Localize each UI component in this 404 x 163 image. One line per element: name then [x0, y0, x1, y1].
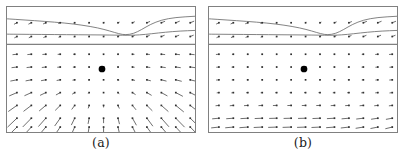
- panel-a: (a): [0, 0, 202, 163]
- field-arrow: [24, 105, 32, 111]
- field-arrow: [147, 93, 151, 96]
- panel-b: (b): [202, 0, 404, 163]
- field-arrow: [161, 105, 168, 111]
- field-arrow: [9, 105, 17, 111]
- field-arrow: [43, 23, 45, 24]
- field-arrow: [386, 118, 392, 119]
- field-arrow: [231, 23, 233, 24]
- field-arrow: [89, 93, 90, 94]
- field-arrow: [327, 127, 335, 128]
- field-arrow: [363, 35, 366, 36]
- field-arrow: [213, 118, 219, 119]
- field-arrow: [26, 80, 31, 81]
- field-arrow: [11, 80, 17, 81]
- grid-node: [290, 79, 292, 81]
- contour-lower-contour: [7, 30, 195, 35]
- curves-group-b: [209, 16, 397, 35]
- field-arrow: [38, 127, 46, 132]
- field-arrow: [147, 36, 149, 37]
- field-arrow: [190, 93, 195, 97]
- grid-node: [103, 92, 105, 94]
- field-arrow: [39, 118, 46, 126]
- plot-frame-a: [6, 6, 196, 133]
- grid-node: [290, 66, 292, 68]
- plot-frame-b: [208, 6, 398, 133]
- field-arrow: [29, 37, 31, 38]
- field-arrow: [357, 118, 364, 119]
- field-arrow: [226, 127, 234, 128]
- field-arrow: [176, 105, 184, 111]
- field-arrow: [7, 127, 16, 132]
- field-arrow: [341, 127, 349, 128]
- field-arrow: [161, 93, 167, 96]
- field-arrow: [10, 93, 17, 96]
- field-arrow: [23, 127, 32, 132]
- field-arrow: [23, 118, 31, 126]
- field-arrow: [212, 127, 219, 128]
- field-arrow: [72, 105, 75, 109]
- field-arrow: [132, 127, 136, 132]
- field-arrow: [40, 93, 45, 96]
- contour-lower-contour: [209, 30, 397, 35]
- field-arrow: [176, 93, 183, 97]
- field-arrow: [147, 118, 153, 126]
- field-arrow: [190, 118, 195, 127]
- field-arrow: [190, 105, 195, 111]
- field-arrow: [386, 127, 393, 129]
- field-arrow: [71, 127, 74, 132]
- grid-node: [305, 79, 307, 81]
- field-arrow: [147, 105, 152, 110]
- field-arrow: [161, 127, 169, 132]
- grid-node: [290, 53, 292, 55]
- grid-node: [305, 53, 307, 55]
- center-marker-b: [301, 66, 308, 73]
- panel-caption-a: (a): [6, 135, 196, 150]
- field-arrow: [25, 93, 32, 96]
- field-arrow: [55, 118, 60, 125]
- curves-group-a: [7, 16, 195, 35]
- field-arrow: [349, 22, 352, 23]
- field-arrow: [342, 118, 349, 119]
- field-arrows-a: [7, 53, 195, 132]
- field-arrow: [132, 93, 135, 95]
- field-arrow: [356, 127, 363, 128]
- center-marker-a: [99, 66, 106, 73]
- field-arrows-b: [212, 53, 394, 128]
- field-arrow: [8, 118, 17, 127]
- field-arrow: [371, 118, 377, 119]
- field-arrow: [72, 118, 75, 124]
- field-arrow: [176, 118, 185, 127]
- field-arrow: [176, 127, 185, 132]
- panel-caption-b: (b): [208, 135, 398, 150]
- field-arrow: [217, 37, 219, 38]
- field-arrow: [371, 127, 378, 128]
- field-arrow: [15, 37, 17, 38]
- field-arrow: [240, 127, 248, 128]
- field-arrow: [190, 127, 195, 132]
- field-arrow: [161, 118, 168, 126]
- grid-node: [290, 22, 292, 24]
- field-arrow: [56, 93, 60, 95]
- vector-field-plot-b: [209, 7, 397, 132]
- vector-field-figure: (a) (b): [0, 0, 404, 163]
- field-arrow: [54, 127, 60, 132]
- field-arrow: [132, 118, 136, 125]
- field-arrow: [132, 105, 135, 109]
- field-arrow: [147, 127, 153, 132]
- grid-node: [103, 53, 105, 55]
- vector-field-plot-a: [7, 7, 195, 132]
- grid-node: [103, 79, 105, 81]
- field-arrow: [39, 105, 45, 110]
- grid-node: [290, 36, 292, 38]
- field-arrow: [55, 105, 60, 110]
- field-arrow: [261, 37, 262, 38]
